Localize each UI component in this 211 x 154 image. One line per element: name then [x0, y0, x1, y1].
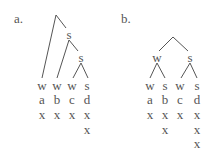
leaf-node-label: w — [175, 79, 184, 92]
tree-edge — [56, 15, 66, 28]
syllable-label: a — [147, 93, 153, 106]
grid-mark: x — [194, 108, 201, 121]
leaf-node-label: w — [37, 79, 46, 92]
tree-edge — [150, 63, 157, 78]
panel-label-b: b. — [121, 12, 131, 25]
grid-mark: x — [54, 108, 61, 121]
tree-node-label: w — [152, 51, 161, 64]
tree-edge — [173, 37, 188, 51]
syllable-label: b — [54, 93, 61, 106]
grid-mark: x — [177, 108, 184, 121]
leaf-node-label: s — [194, 79, 199, 92]
syllable-label: c — [69, 93, 75, 106]
syllable-label: b — [162, 93, 169, 106]
tree-edge — [42, 15, 56, 78]
tree-edge — [157, 63, 165, 78]
grid-mark: x — [162, 108, 169, 121]
tree-node-label: s — [78, 51, 83, 64]
syllable-label: d — [194, 93, 201, 106]
grid-mark: x — [39, 108, 46, 121]
tree-edge — [81, 63, 88, 78]
grid-mark: x — [69, 108, 76, 121]
grid-mark: x — [194, 137, 201, 150]
grid-mark: x — [147, 108, 154, 121]
leaf-node-label: s — [162, 79, 167, 92]
tree-edge — [181, 63, 190, 78]
tree-node-label: s — [66, 28, 71, 41]
grid-mark: x — [84, 108, 91, 121]
syllable-label: a — [39, 93, 45, 106]
syllable-label: d — [84, 93, 91, 106]
tree-edge — [190, 63, 197, 78]
tree-edge — [57, 40, 69, 78]
leaf-node-label: w — [52, 79, 61, 92]
leaf-node-label: w — [67, 79, 76, 92]
grid-mark: x — [84, 123, 91, 136]
grid-mark: x — [162, 123, 169, 136]
leaf-node-label: w — [145, 79, 154, 92]
panel-label-a: a. — [14, 12, 23, 25]
tree-edge — [69, 40, 78, 51]
grid-mark: x — [194, 123, 201, 136]
leaf-node-label: s — [84, 79, 89, 92]
syllable-label: c — [177, 93, 183, 106]
tree-edge — [73, 63, 81, 78]
tree-node-label: s — [187, 51, 192, 64]
